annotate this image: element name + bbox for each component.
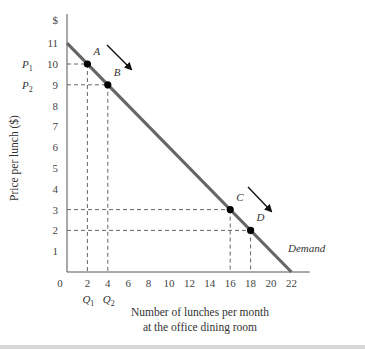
y-axis-title: Price per lunch ($) [8,115,21,201]
point-label-c: C [236,191,244,203]
demand-label: Demand [287,242,326,254]
x-axis-title-line1: Number of lunches per month [131,306,269,319]
demand-curve [67,43,291,272]
x-tick-label: 14 [204,277,216,289]
y-tick-label: 6 [53,141,59,153]
y-tick-label: 7 [53,120,59,132]
y-tick-label: 3 [53,204,59,216]
y-tick-label: 5 [53,162,59,174]
x-tick-label: 12 [184,277,195,289]
x-tick-label: 22 [286,277,297,289]
y-tick-label: 10 [47,58,59,70]
arrow-c-to-d-icon [248,187,271,211]
point-d [247,227,254,234]
bottom-border [0,345,365,349]
x-tick-label: 18 [245,277,257,289]
x-tick-label: 16 [225,277,237,289]
quantity-label-q1: Q1 [82,293,94,308]
point-label-d: D [256,211,265,223]
x-tick-label: 2 [85,277,91,289]
point-c [227,206,234,213]
price-label-p1: P1 [21,58,33,73]
x-tick-label: 4 [105,277,111,289]
point-label-b: B [114,66,121,78]
y-tick-label: 8 [53,100,59,112]
x-tick-label: 10 [164,277,176,289]
x-tick-label: 8 [146,277,152,289]
point-label-a: A [92,45,100,57]
demand-chart: $12345678910110246810121416182022ABCDP1P… [0,0,365,349]
x-tick-label: 6 [125,277,131,289]
x-tick-label: 20 [266,277,278,289]
y-tick-label: 4 [53,183,59,195]
quantity-label-q2: Q2 [103,293,115,308]
y-tick-label: 9 [53,79,59,91]
price-label-p2: P2 [21,79,33,94]
y-tick-label: 2 [53,224,59,236]
y-tick-label: 1 [53,245,59,257]
y-unit-label: $ [53,14,59,26]
point-a [84,60,91,67]
point-b [104,81,111,88]
y-tick-label: 11 [47,37,58,49]
x-tick-label: 0 [57,277,63,289]
x-axis-title-line2: at the office dining room [143,321,257,334]
